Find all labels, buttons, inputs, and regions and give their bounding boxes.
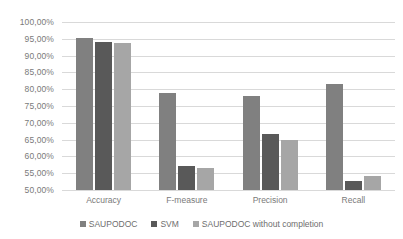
y-axis: 100,00%95,00%90,00%85,00%80,00%75,00%70,…: [0, 22, 58, 190]
bar-groups: [62, 22, 395, 190]
bar-group: [229, 22, 312, 190]
bar-group-bars: [62, 22, 145, 190]
bar[interactable]: [262, 134, 279, 190]
x-axis-tick-label: F-measure: [145, 192, 228, 208]
bar-chart: 100,00%95,00%90,00%85,00%80,00%75,00%70,…: [0, 0, 403, 239]
x-axis-tick-label: Accuracy: [62, 192, 145, 208]
y-axis-tick-label: 50,00%: [25, 185, 54, 195]
axis-baseline: [62, 190, 395, 191]
bar[interactable]: [95, 42, 112, 190]
bar[interactable]: [76, 38, 93, 190]
bar-group-bars: [229, 22, 312, 190]
y-axis-tick-label: 85,00%: [25, 67, 54, 77]
legend-item[interactable]: SAUPODOC: [80, 219, 138, 229]
legend-swatch-icon: [193, 221, 199, 227]
chart-legend: SAUPODOCSVMSAUPODOC without completion: [0, 216, 403, 232]
bar[interactable]: [114, 43, 131, 190]
legend-label: SAUPODOC without completion: [202, 219, 323, 229]
bar[interactable]: [197, 168, 214, 190]
x-axis: AccuracyF-measurePrecisionRecall: [62, 192, 395, 208]
legend-label: SAUPODOC: [89, 219, 138, 229]
x-axis-tick-label: Recall: [312, 192, 395, 208]
bar[interactable]: [243, 96, 260, 190]
legend-swatch-icon: [151, 221, 157, 227]
bar[interactable]: [159, 93, 176, 190]
bar-group-bars: [145, 22, 228, 190]
bar[interactable]: [178, 166, 195, 190]
y-axis-tick-label: 75,00%: [25, 101, 54, 111]
bar-group: [312, 22, 395, 190]
legend-item[interactable]: SVM: [151, 219, 178, 229]
y-axis-tick-label: 100,00%: [20, 17, 54, 27]
y-axis-tick-label: 70,00%: [25, 118, 54, 128]
x-axis-tick-label: Precision: [229, 192, 312, 208]
bar[interactable]: [364, 176, 381, 190]
legend-item[interactable]: SAUPODOC without completion: [193, 219, 323, 229]
bar-group-bars: [312, 22, 395, 190]
bar[interactable]: [281, 140, 298, 190]
legend-swatch-icon: [80, 221, 86, 227]
bar-group: [62, 22, 145, 190]
y-axis-tick-label: 80,00%: [25, 84, 54, 94]
bar[interactable]: [345, 181, 362, 190]
bar-group: [145, 22, 228, 190]
y-axis-tick-label: 95,00%: [25, 34, 54, 44]
bar[interactable]: [326, 84, 343, 190]
y-axis-tick-label: 65,00%: [25, 135, 54, 145]
y-axis-tick-label: 90,00%: [25, 51, 54, 61]
y-axis-tick-label: 60,00%: [25, 151, 54, 161]
y-axis-tick-label: 55,00%: [25, 168, 54, 178]
legend-label: SVM: [160, 219, 178, 229]
